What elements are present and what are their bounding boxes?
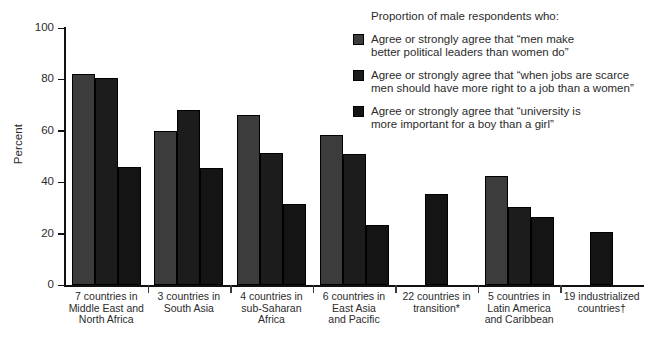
y-tick-label-40: 40 (22, 176, 54, 188)
bar-group-2-series-3 (200, 168, 223, 285)
legend-label-line: more important for a boy than a girl” (371, 118, 652, 131)
y-tick-40 (58, 182, 65, 184)
y-tick-label-0: 0 (22, 279, 54, 291)
x-category-label-line: North Africa (65, 314, 148, 326)
bar-group-2-series-2 (177, 110, 200, 285)
bar-group-4-series-2 (343, 154, 366, 285)
bar-group-5-series-3 (425, 194, 448, 285)
x-category-label-1: 7 countries inMiddle East andNorth Afric… (65, 291, 148, 326)
x-category-label-line: 5 countries in (478, 291, 561, 303)
x-axis-line (64, 285, 644, 287)
x-category-label-line: countries† (560, 303, 643, 315)
legend-item-2: Agree or strongly agree that “when jobs … (352, 69, 652, 96)
x-category-label-line: South Asia (148, 303, 231, 315)
x-category-label-line: transition* (395, 303, 478, 315)
legend-swatch-series-1 (353, 34, 364, 45)
bar-group-7-series-3 (590, 232, 613, 285)
bar-group-6-series-1 (485, 176, 508, 285)
bar-group-2-series-1 (154, 131, 177, 285)
legend-label-line: Agree or strongly agree that “men make (371, 33, 652, 46)
bar-group-4-series-1 (320, 135, 343, 285)
y-tick-0 (58, 285, 65, 287)
x-category-label-5: 22 countries intransition* (395, 291, 478, 314)
bar-group-6-series-3 (531, 217, 554, 285)
legend-item-3: Agree or strongly agree that “university… (352, 105, 652, 132)
bar-group-1-series-3 (118, 167, 141, 285)
y-tick-label-60: 60 (22, 125, 54, 137)
bar-group-3-series-2 (260, 153, 283, 285)
x-category-label-6: 5 countries inLatin Americaand Caribbean (478, 291, 561, 326)
legend-label-line: better political leaders than women do” (371, 46, 652, 59)
y-tick-label-80: 80 (22, 73, 54, 85)
x-category-label-line: and Pacific (313, 314, 396, 326)
x-category-label-3: 4 countries insub-SaharanAfrica (230, 291, 313, 326)
y-tick-60 (58, 130, 65, 132)
x-category-label-line: 3 countries in (148, 291, 231, 303)
x-category-label-line: 19 industrialized (560, 291, 643, 303)
legend-items: Agree or strongly agree that “men makebe… (352, 33, 652, 131)
bar-chart: Percent 100806040200 7 countries inMiddl… (0, 0, 656, 338)
legend-swatch-series-3 (353, 106, 364, 117)
x-category-label-line: and Caribbean (478, 314, 561, 326)
x-category-label-line: 7 countries in (65, 291, 148, 303)
legend: Proportion of male respondents who: Agre… (352, 10, 652, 140)
y-tick-100 (58, 28, 65, 30)
x-category-label-line: 6 countries in (313, 291, 396, 303)
bar-group-3-series-3 (283, 204, 306, 285)
legend-swatch-series-2 (353, 70, 364, 81)
bar-group-6-series-2 (508, 207, 531, 285)
bar-group-1-series-2 (95, 78, 118, 285)
x-category-label-2: 3 countries inSouth Asia (148, 291, 231, 314)
legend-item-1: Agree or strongly agree that “men makebe… (352, 33, 652, 60)
y-tick-label-100: 100 (22, 22, 54, 34)
y-tick-80 (58, 79, 65, 81)
bar-group-3-series-1 (237, 115, 260, 285)
x-category-label-line: 4 countries in (230, 291, 313, 303)
bar-group-1-series-1 (72, 74, 95, 285)
x-category-label-4: 6 countries inEast Asiaand Pacific (313, 291, 396, 326)
y-tick-20 (58, 233, 65, 235)
legend-title: Proportion of male respondents who: (371, 10, 652, 23)
bar-group-4-series-3 (366, 225, 389, 285)
legend-label-line: men should have more right to a job than… (371, 82, 652, 95)
x-category-label-line: 22 countries in (395, 291, 478, 303)
x-category-label-7: 19 industrializedcountries† (560, 291, 643, 314)
y-tick-label-20: 20 (22, 228, 54, 240)
legend-label-line: Agree or strongly agree that “university… (371, 105, 652, 118)
legend-label-line: Agree or strongly agree that “when jobs … (371, 69, 652, 82)
x-category-label-line: Africa (230, 314, 313, 326)
y-axis-title: Percent (12, 114, 24, 174)
